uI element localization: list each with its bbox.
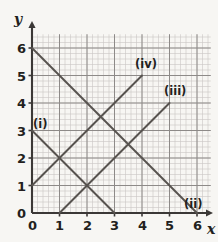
y-tick-label-4: 4 (17, 97, 26, 110)
x-axis-label: x (207, 222, 215, 236)
graph-figure: 0 1 2 3 4 5 6 0 1 2 3 4 5 6 x y (i) (ii)… (0, 0, 218, 242)
x-tick-label-5: 5 (165, 219, 174, 232)
x-tick-label-4: 4 (138, 219, 147, 232)
y-tick-label-2: 2 (17, 152, 26, 165)
y-tick-label-3: 3 (17, 125, 26, 138)
curve-label-iii: (iii) (164, 86, 186, 98)
x-tick-label-2: 2 (83, 219, 92, 232)
x-tick-label-6: 6 (193, 219, 202, 232)
grid-minor (32, 34, 211, 213)
y-tick-label-5: 5 (17, 70, 26, 83)
plot-line-i (32, 131, 115, 214)
x-tick-label-1: 1 (55, 219, 64, 232)
curve-label-i: (i) (33, 119, 47, 131)
grid-major (32, 34, 211, 213)
y-tick-label-0: 0 (17, 207, 26, 220)
y-axis-label: y (14, 12, 22, 26)
curve-label-ii: (ii) (184, 199, 202, 211)
x-tick-label-3: 3 (110, 219, 119, 232)
x-tick-label-0: 0 (28, 219, 37, 232)
axes (28, 21, 213, 217)
curve-label-iv: (iv) (135, 59, 157, 71)
y-tick-label-1: 1 (17, 180, 26, 193)
y-tick-label-6: 6 (17, 42, 26, 55)
